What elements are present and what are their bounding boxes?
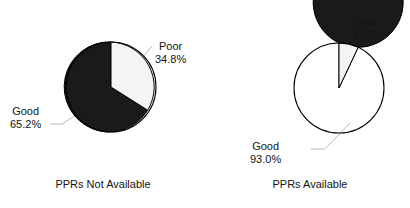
pie-slice-poor: [339, 43, 358, 88]
pie-chart-figure: Poor 34.8% Good 65.2% PPRs Not Available…: [0, 0, 410, 208]
slice-label-poor: Poor 34.8%: [155, 40, 186, 66]
pie-chart-left: [0, 0, 205, 208]
pie-slice-good: [313, 0, 403, 88]
leader-line-good: [50, 115, 76, 124]
slice-label-poor-percent: 7.0%: [353, 29, 378, 42]
slice-label-good: Good 65.2%: [10, 105, 41, 131]
slice-label-poor-category: Poor: [353, 16, 378, 29]
slice-label-good-percent: 93.0%: [250, 153, 281, 166]
slice-label-poor-percent: 34.8%: [155, 53, 186, 66]
slice-label-poor-category: Poor: [155, 40, 186, 53]
slice-label-good-category: Good: [250, 140, 281, 153]
chart-panel-ppr-available: Poor 7.0% Good 93.0% PPRs Available: [205, 0, 410, 208]
chart-panel-ppr-not-available: Poor 34.8% Good 65.2% PPRs Not Available: [0, 0, 205, 208]
slice-label-good-percent: 65.2%: [10, 118, 41, 131]
pie-chart-right: [205, 0, 410, 208]
chart-caption-right: PPRs Available: [250, 178, 370, 190]
slice-label-good-category: Good: [10, 105, 41, 118]
slice-label-good: Good 93.0%: [250, 140, 281, 166]
chart-caption-left: PPRs Not Available: [38, 178, 168, 190]
slice-label-poor: Poor 7.0%: [353, 16, 378, 42]
leader-line-poor: [143, 46, 152, 57]
